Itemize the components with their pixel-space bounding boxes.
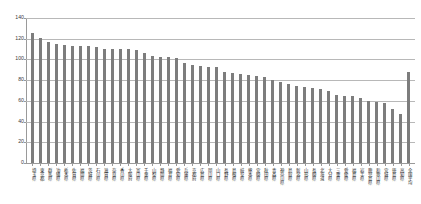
x-tick-mark	[56, 164, 57, 166]
x-tick-mark	[208, 164, 209, 166]
x-tick-mark	[64, 164, 65, 166]
x-tick-label: 徳島県	[390, 168, 394, 180]
x-tick-mark	[281, 164, 282, 166]
x-tick-label: 佐賀県	[70, 168, 74, 180]
bar	[39, 38, 42, 163]
x-tick-mark	[40, 164, 41, 166]
x-tick-label: 鹿児島県	[366, 168, 370, 184]
x-tick-mark	[409, 164, 410, 166]
x-tick-mark	[233, 164, 234, 166]
y-tick-label-20: 20	[2, 140, 24, 145]
x-tick-mark	[112, 164, 113, 166]
gridline-40	[26, 122, 415, 123]
x-tick-mark	[32, 164, 33, 166]
x-tick-label: 福岡県	[78, 168, 82, 180]
x-tick-label: 青森県	[270, 168, 274, 180]
x-tick-label: 大分県	[326, 168, 330, 180]
x-tick-label: 鳥取県	[286, 168, 290, 180]
bar	[151, 56, 154, 163]
x-tick-mark	[192, 164, 193, 166]
gridline-100	[26, 59, 415, 60]
y-tick-label-40: 40	[2, 119, 24, 124]
bar	[95, 47, 98, 163]
x-tick-label: 島根県	[230, 168, 234, 180]
x-tick-mark	[144, 164, 145, 166]
x-tick-mark	[200, 164, 201, 166]
x-tick-mark	[241, 164, 242, 166]
y-axis-tick-labels: 020406080100120140	[0, 18, 24, 164]
bar	[367, 101, 370, 163]
plot-area	[26, 18, 415, 163]
bar	[399, 114, 402, 163]
x-tick-label: 千葉県	[142, 168, 146, 180]
x-tick-label: 茨城県	[86, 168, 90, 180]
y-tick-label-120: 120	[2, 36, 24, 41]
bar	[271, 80, 274, 163]
x-tick-label: 宮城県	[382, 168, 386, 180]
bar	[71, 46, 74, 163]
x-tick-label: 和歌山県	[374, 168, 378, 184]
bar	[247, 75, 250, 163]
x-tick-label: 高知県	[398, 168, 402, 180]
x-tick-label: 栃木県	[62, 168, 66, 180]
x-tick-label: 静岡県	[158, 168, 162, 180]
x-tick-mark	[136, 164, 137, 166]
x-tick-mark	[72, 164, 73, 166]
gridline-20	[26, 142, 415, 143]
bar	[343, 96, 346, 163]
x-tick-mark	[401, 164, 402, 166]
x-tick-mark	[345, 164, 346, 166]
bar	[375, 102, 378, 163]
bar	[335, 95, 338, 163]
x-tick-mark	[265, 164, 266, 166]
x-tick-mark	[361, 164, 362, 166]
bar	[359, 98, 362, 163]
x-tick-mark	[152, 164, 153, 166]
bar	[191, 65, 194, 163]
x-tick-label: 埼玉県	[30, 168, 34, 180]
x-tick-label: 岡山県	[206, 168, 210, 180]
x-tick-label: 秋田県	[262, 168, 266, 180]
bar	[111, 49, 114, 163]
bar	[383, 103, 386, 163]
bar	[255, 76, 258, 163]
bar	[127, 49, 130, 163]
bar	[175, 58, 178, 163]
x-tick-label: 愛知県	[174, 168, 178, 180]
x-axis-line	[26, 163, 415, 164]
x-tick-mark	[353, 164, 354, 166]
gridline-80	[26, 80, 415, 81]
bar	[79, 46, 82, 163]
x-tick-mark	[88, 164, 89, 166]
x-tick-mark	[120, 164, 121, 166]
y-tick-label-100: 100	[2, 57, 24, 62]
x-tick-label: 宮崎県	[254, 168, 258, 180]
x-tick-mark	[297, 164, 298, 166]
x-tick-mark	[225, 164, 226, 166]
gridline-120	[26, 39, 415, 40]
bar	[199, 66, 202, 163]
x-tick-mark	[369, 164, 370, 166]
bar	[47, 42, 50, 163]
x-tick-label: 沖縄県	[54, 168, 58, 180]
gridline-60	[26, 101, 415, 102]
x-tick-mark	[176, 164, 177, 166]
x-tick-mark	[128, 164, 129, 166]
x-tick-mark	[377, 164, 378, 166]
bar	[327, 91, 330, 164]
x-tick-label: 奈良県	[110, 168, 114, 180]
x-tick-mark	[273, 164, 274, 166]
x-tick-mark	[329, 164, 330, 166]
bar	[263, 77, 266, 163]
x-tick-label: 福井県	[166, 168, 170, 180]
y-tick-label-60: 60	[2, 98, 24, 103]
x-tick-label: 東京都	[38, 168, 42, 180]
x-tick-label: 香川県	[118, 168, 122, 180]
x-tick-mark	[393, 164, 394, 166]
x-tick-label: 愛媛県	[342, 168, 346, 180]
bar	[295, 86, 298, 163]
bar	[55, 44, 58, 163]
x-tick-label: 群馬県	[46, 168, 50, 180]
x-tick-mark	[48, 164, 49, 166]
x-tick-mark	[168, 164, 169, 166]
